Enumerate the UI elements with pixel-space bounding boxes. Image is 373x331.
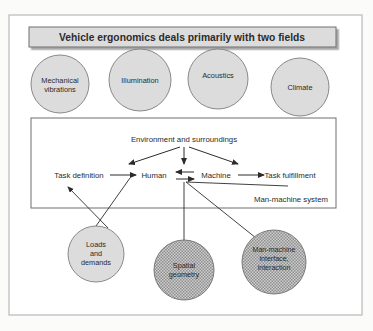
node-task-fulfillment: Task fulfillment <box>264 171 316 180</box>
node-human: Human <box>141 171 166 180</box>
factor-label-line1: Climate <box>287 83 312 92</box>
factor-label-line3: demands <box>81 258 111 267</box>
factor-label-line2: geometry <box>169 270 200 279</box>
factor-acoustics: Acoustics <box>188 49 248 109</box>
factor-climate: Climate <box>271 58 329 116</box>
factor-label-line1: Spatial <box>173 261 196 270</box>
factor-illumination: Illumination <box>109 49 171 111</box>
factor-spatial-geometry: Spatial geometry <box>154 240 214 300</box>
factor-label-line3: interaction <box>258 264 291 272</box>
ergonomics-diagram: Vehicle ergonomics deals primarily with … <box>0 0 373 331</box>
factor-loads-and-demands: Loads and demands <box>68 226 124 282</box>
node-task-definition: Task definition <box>54 171 103 180</box>
man-machine-system-label: Man-machine system <box>254 195 328 204</box>
factor-label-line1: Man-machine <box>253 246 296 254</box>
node-environment: Environment and surroundings <box>131 135 237 144</box>
factor-label-line2: and <box>90 249 102 258</box>
node-machine: Machine <box>201 171 230 180</box>
factor-label-line1: Mechanical <box>41 76 79 85</box>
page-title: Vehicle ergonomics deals primarily with … <box>59 32 305 43</box>
factor-label-line1: Acoustics <box>202 71 234 80</box>
factor-label-line2: vibrations <box>44 85 76 94</box>
factor-label-line1: Illumination <box>121 76 158 85</box>
factor-label-line1: Loads <box>86 240 106 249</box>
factor-man-machine-interface: Man-machine interface, interaction <box>242 230 306 294</box>
factor-label-line2: interface, <box>259 255 288 263</box>
factor-mechanical-vibrations: Mechanical vibrations <box>31 55 89 113</box>
